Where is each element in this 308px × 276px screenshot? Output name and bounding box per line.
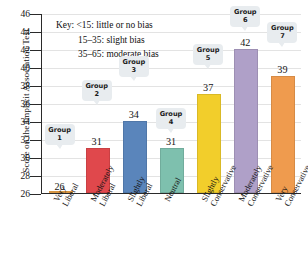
bar-value-label: 34 <box>114 109 154 120</box>
group-callout: Group7 <box>267 22 297 43</box>
key-line-1: Key: <15: little or no bias <box>56 18 159 33</box>
group-callout-number: 7 <box>270 32 294 40</box>
y-axis-tick <box>30 86 41 87</box>
y-axis-tick <box>30 122 41 123</box>
y-axis-tick-label: 34 <box>8 117 30 127</box>
key-label: Key: <box>56 20 74 30</box>
group-callout: Group5 <box>193 44 223 65</box>
group-callout-label: Group <box>233 8 257 16</box>
callout-tail <box>278 42 285 47</box>
group-callout-number: 5 <box>196 54 220 62</box>
callout-tail <box>93 100 100 105</box>
callout-tail <box>56 144 63 149</box>
y-axis-tick <box>30 176 41 177</box>
y-axis-tick <box>30 194 41 195</box>
bar-value-label: 31 <box>151 136 191 147</box>
y-axis-tick-label: 40 <box>8 63 30 73</box>
callout-tail <box>167 128 174 133</box>
group-callout: Group1 <box>45 124 75 145</box>
bar-chart: Score on the Implicit Association Test 2… <box>0 0 308 276</box>
group-callout-label: Group <box>270 24 294 32</box>
y-axis-tick <box>30 14 41 15</box>
y-axis-tick-label: 26 <box>8 189 30 199</box>
y-axis-tick-label: 36 <box>8 99 30 109</box>
bar-value-label: 42 <box>225 37 265 48</box>
y-axis-tick <box>30 68 41 69</box>
group-callout: Group3 <box>119 56 149 77</box>
group-callout-number: 4 <box>159 118 183 126</box>
bar-value-label: 37 <box>188 82 228 93</box>
bar-value-label: 39 <box>262 64 302 75</box>
callout-tail <box>204 64 211 69</box>
y-axis-tick-label: 46 <box>8 9 30 19</box>
group-callout-number: 2 <box>85 90 109 98</box>
bar-value-label: 31 <box>77 136 117 147</box>
group-callout-number: 6 <box>233 16 257 24</box>
key-item-2: 15–35: slight bias <box>56 33 159 48</box>
group-callout: Group6 <box>230 6 260 27</box>
y-axis-tick <box>30 50 41 51</box>
y-axis-tick <box>30 140 41 141</box>
y-axis-tick-label: 30 <box>8 153 30 163</box>
y-axis-tick-label: 38 <box>8 81 30 91</box>
key-item-1: <15: little or no bias <box>77 20 153 30</box>
gridline <box>42 86 301 87</box>
group-callout-label: Group <box>159 110 183 118</box>
y-axis-tick <box>30 32 41 33</box>
y-axis-tick-label: 44 <box>8 27 30 37</box>
y-axis-tick <box>30 158 41 159</box>
group-callout-label: Group <box>196 46 220 54</box>
group-callout-label: Group <box>85 82 109 90</box>
group-callout-label: Group <box>122 58 146 66</box>
bar-value-label: 26 <box>40 181 80 192</box>
group-callout-number: 3 <box>122 66 146 74</box>
y-axis-tick-label: 28 <box>8 171 30 181</box>
callout-tail <box>241 26 248 31</box>
y-axis-tick-label: 32 <box>8 135 30 145</box>
gridline <box>42 14 301 15</box>
group-callout: Group4 <box>156 108 186 129</box>
group-callout-number: 1 <box>48 134 72 142</box>
group-callout: Group2 <box>82 80 112 101</box>
group-callout-label: Group <box>48 126 72 134</box>
callout-tail <box>130 76 137 81</box>
gridline <box>42 104 301 105</box>
y-axis-tick-label: 42 <box>8 45 30 55</box>
y-axis-tick <box>30 104 41 105</box>
